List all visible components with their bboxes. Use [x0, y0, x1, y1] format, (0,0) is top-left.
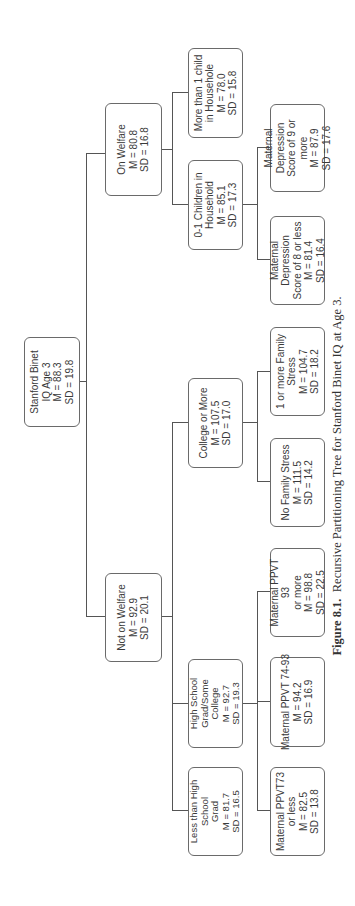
connector: [243, 422, 257, 423]
node-mean: M = 104.7: [298, 349, 310, 394]
node-sd: SD = 16.4: [315, 238, 327, 283]
node-on-welfare: On Welfare M = 80.8 SD = 16.8: [105, 103, 162, 196]
node-sd: SD = 22.5: [315, 570, 327, 615]
connector: [172, 92, 188, 93]
connector: [162, 149, 172, 150]
node-label: Maternal PPVT73: [275, 772, 287, 851]
connector: [172, 93, 173, 205]
node-label: Household: [204, 181, 216, 229]
node-label: No Family Stress: [280, 444, 292, 520]
node-mean: M = 87.9: [309, 128, 321, 167]
node-sd: SD = 16.9: [303, 680, 315, 725]
node-mean: M = 81.4: [303, 241, 315, 280]
connector: [172, 810, 188, 811]
node-ppvt-93-or-more: Maternal PPVT 93 or more M = 98.8 SD = 2…: [270, 548, 325, 637]
connector: [172, 204, 188, 205]
node-label: Stanford Binet: [29, 350, 41, 413]
node-hs-grad-some-college: High School Grad/Some College M = 92.7 S…: [188, 659, 243, 748]
node-mean: M = 85.1: [216, 185, 228, 224]
connector: [243, 204, 257, 205]
node-sd: SD = 17.0: [221, 401, 233, 446]
node-label: On Welfare: [116, 124, 128, 174]
node-label: Score of 8 or less: [292, 222, 304, 300]
node-label: IQ Age 3: [41, 363, 53, 402]
node-sd: SD = 19.3: [231, 682, 242, 725]
tree-diagram: Stanford Binet IQ Age 3 M = 88.3 SD = 19…: [0, 0, 355, 906]
node-sd: SD = 14.2: [303, 460, 315, 505]
node-more-than-1-child: More than 1 child in Househole M = 78.0 …: [188, 48, 243, 138]
node-label: Maternal Depression: [263, 108, 286, 188]
node-mean: M = 111.5: [292, 461, 304, 504]
node-sd: SD = 17.6: [321, 126, 333, 171]
node-label: Maternal PPVT 74-93: [280, 654, 292, 750]
connector: [86, 153, 105, 154]
node-mean: M = 88.3: [52, 362, 64, 401]
node-sd: SD = 19.8: [64, 360, 76, 405]
connector: [257, 371, 270, 372]
caption-label: Figure 8.1.: [330, 599, 344, 656]
node-mean: M = 78.0: [216, 73, 228, 112]
figure-caption: Figure 8.1. Recursive Partitioning Tree …: [330, 176, 345, 776]
node-label: College or More: [198, 387, 210, 458]
connector: [86, 616, 105, 617]
node-sd: SD = 17.3: [227, 183, 239, 228]
node-ppvt-74-93: Maternal PPVT 74-93 M = 94.2 SD = 16.9: [270, 657, 325, 747]
node-mean: M = 94.2: [292, 682, 304, 721]
caption-text: Recursive Partitioning Tree for Stanford…: [330, 296, 344, 592]
node-label: 0-1 Children in: [193, 172, 205, 237]
node-sd: SD = 18.2: [309, 349, 321, 394]
node-sd: SD = 16.8: [139, 127, 151, 172]
connector: [257, 371, 258, 482]
node-sd: SD = 20.1: [139, 595, 151, 640]
connector: [257, 810, 270, 811]
connector: [162, 616, 172, 617]
node-0-1-children: 0-1 Children in Household M = 85.1 SD = …: [188, 160, 243, 250]
node-mat-dep-9-or-more: Maternal Depression Score of 9 or more M…: [270, 104, 325, 192]
node-sd: SD = 15.8: [227, 71, 239, 116]
node-less-than-hs: Less than High School Grad M = 81.7 SD =…: [188, 767, 243, 856]
node-no-family-stress: No Family Stress M = 111.5 SD = 14.2: [270, 438, 325, 527]
node-label: or more: [292, 575, 304, 609]
node-mat-dep-8-or-less: Maternal Depression Score of 8 or less M…: [270, 216, 325, 305]
node-mean: M = 92.9: [128, 598, 140, 637]
node-mean: M = 82.5: [298, 792, 310, 831]
node-root: Stanford Binet IQ Age 3 M = 88.3 SD = 19…: [24, 337, 80, 427]
node-sd: SD = 13.8: [309, 789, 321, 834]
node-1-or-more-stress: 1 or more Family Stress M = 104.7 SD = 1…: [270, 327, 325, 416]
node-college-or-more: College or More M = 107.5 SD = 17.0: [188, 378, 243, 468]
node-not-on-welfare: Not on Welfare M = 92.9 SD = 20.1: [105, 573, 162, 662]
connector: [257, 701, 270, 702]
node-mean: M = 107.5: [210, 401, 222, 446]
connector: [243, 703, 257, 704]
node-label: Score of 9 or more: [286, 108, 309, 188]
node-label: More than 1 child: [193, 55, 205, 132]
node-ppvt-73-or-less: Maternal PPVT73 or less M = 82.5 SD = 13…: [270, 767, 325, 856]
node-label: Stress: [286, 357, 298, 385]
connector: [172, 703, 188, 704]
node-label: Maternal PPVT 93: [269, 552, 292, 633]
node-mean: M = 98.8: [303, 573, 315, 612]
node-label: or less: [286, 797, 298, 826]
node-label: Not on Welfare: [116, 584, 128, 651]
node-label: in Househole: [204, 64, 216, 122]
node-mean: M = 80.8: [128, 130, 140, 169]
connector: [257, 147, 258, 260]
node-label: Maternal Depression: [269, 220, 292, 301]
connector: [257, 481, 270, 482]
connector: [172, 422, 173, 811]
node-label: 1 or more Family: [275, 334, 287, 409]
node-sd: SD = 16.5: [231, 790, 242, 833]
connector: [172, 422, 188, 423]
connector: [86, 153, 87, 617]
